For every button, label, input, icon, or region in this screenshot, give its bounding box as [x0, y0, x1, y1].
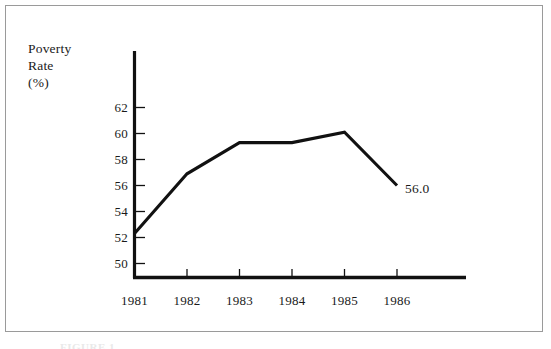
plot-area: Poverty Rate (%) 62 60 58 56 54 52 50 19…: [6, 6, 544, 333]
y-axis-title-line-1: Poverty: [28, 40, 71, 57]
figure-root: Poverty Rate (%) 62 60 58 56 54 52 50 19…: [0, 0, 551, 349]
x-axis-tick-label-1985: 1985: [322, 294, 368, 307]
x-axis-ticks: [135, 269, 398, 276]
y-axis-tick-label-60: 60: [102, 127, 128, 140]
y-axis-tick-label-56: 56: [102, 179, 128, 192]
x-axis-tick-label-1984: 1984: [269, 294, 315, 307]
data-series-poverty-rate: [135, 132, 398, 233]
x-axis-tick-label-1982: 1982: [164, 294, 210, 307]
data-point-label-1986: 56.0: [405, 182, 429, 196]
y-axis-title: Poverty Rate (%): [28, 40, 71, 91]
x-axis-tick-label-1983: 1983: [217, 294, 263, 307]
chart-frame-border: Poverty Rate (%) 62 60 58 56 54 52 50 19…: [5, 5, 543, 332]
x-axis-tick-label-1986: 1986: [374, 294, 420, 307]
y-axis-tick-label-54: 54: [102, 205, 128, 218]
x-axis-tick-label-1981: 1981: [112, 294, 158, 307]
y-axis-title-line-3: (%): [28, 74, 71, 91]
y-axis-tick-label-62: 62: [102, 101, 128, 114]
y-axis-ticks: [136, 108, 145, 264]
y-axis-tick-label-52: 52: [102, 231, 128, 244]
y-axis-tick-label-50: 50: [102, 257, 128, 270]
line-chart-canvas: [6, 6, 544, 333]
y-axis-tick-label-58: 58: [102, 153, 128, 166]
figure-caption-partial: FIGURE 1.: [60, 341, 118, 349]
y-axis-title-line-2: Rate: [28, 57, 71, 74]
